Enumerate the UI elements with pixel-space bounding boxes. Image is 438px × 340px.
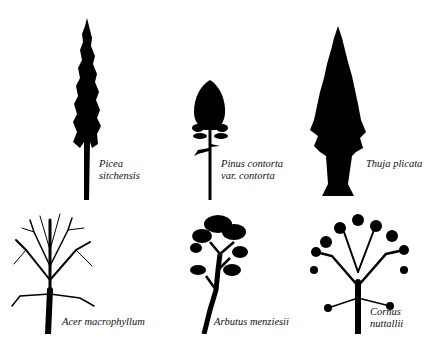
label-line: nuttallii [370,318,403,330]
cornus-nuttallii-label: Cornus nuttallii [370,306,403,330]
label-line: Acer macrophyllum [62,316,145,328]
label-line: sitchensis [99,170,140,182]
label-line: Arbutus menziesii [214,316,289,328]
label-line: Thuja plicata [366,158,422,170]
label-line: var. contorta [221,170,283,182]
arbutus-menziesii-label: Arbutus menziesii [214,316,289,328]
thuja-plicata-silhouette [308,24,368,196]
label-line: Picea [99,158,140,170]
thuja-plicata-label: Thuja plicata [366,158,422,170]
acer-macrophyllum-label: Acer macrophyllum [62,316,145,328]
label-line: Cornus [370,306,403,318]
label-line: Pinus contorta [221,158,283,170]
picea-sitchensis-label: Picea sitchensis [99,158,140,182]
pinus-contorta-label: Pinus contorta var. contorta [221,158,283,182]
